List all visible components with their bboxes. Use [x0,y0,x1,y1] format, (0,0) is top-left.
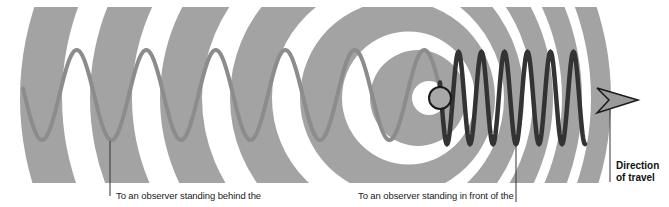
direction-label-line1: Direction [616,160,659,172]
doppler-diagram [0,0,669,207]
direction-label-line2: of travel [616,172,659,184]
caption-observer-behind: To an observer standing behind the [116,190,261,201]
sound-source-circle [429,87,451,109]
caption-observer-front: To an observer standing in front of the [358,190,514,201]
direction-of-travel-label: Direction of travel [616,160,659,184]
